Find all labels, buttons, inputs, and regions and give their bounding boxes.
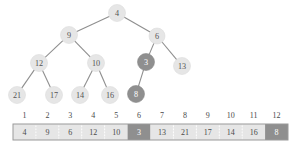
array-index-label: 9 bbox=[206, 111, 210, 120]
array-cell[interactable]: 14 bbox=[219, 124, 242, 140]
tree-node[interactable]: 8 bbox=[128, 86, 145, 103]
tree-node[interactable]: 9 bbox=[61, 27, 78, 44]
tree-edge bbox=[22, 70, 35, 89]
tree-edge bbox=[124, 17, 151, 32]
array-cell[interactable]: 10 bbox=[105, 124, 128, 140]
tree-node-label: 21 bbox=[13, 91, 21, 100]
array-cell-value: 14 bbox=[227, 128, 235, 137]
tree-nodes: 4961210313211714168 bbox=[9, 5, 191, 104]
array-cell-value: 21 bbox=[181, 128, 189, 137]
array-cells: 4961210313211714168 bbox=[13, 124, 288, 140]
array-index-label: 4 bbox=[91, 111, 95, 120]
array-index-label: 12 bbox=[273, 111, 281, 120]
tree-node-label: 4 bbox=[115, 9, 119, 18]
array-index-label: 5 bbox=[114, 111, 118, 120]
array-index-label: 3 bbox=[68, 111, 72, 120]
tree-node-label: 8 bbox=[134, 90, 138, 99]
array-index-label: 10 bbox=[227, 111, 235, 120]
array-index-label: 1 bbox=[22, 111, 26, 120]
array-cell[interactable]: 4 bbox=[13, 124, 36, 140]
array-index-label: 2 bbox=[45, 111, 49, 120]
array-cell-value: 9 bbox=[45, 128, 49, 137]
heap-diagram: 4961210313211714168 123456789101112 4961… bbox=[0, 0, 296, 146]
tree-node-label: 14 bbox=[76, 91, 84, 100]
tree-node[interactable]: 13 bbox=[174, 58, 191, 75]
array-cell-value: 3 bbox=[137, 128, 141, 137]
tree-node[interactable]: 4 bbox=[109, 5, 126, 22]
tree-node-label: 9 bbox=[67, 31, 71, 40]
array-index-labels: 123456789101112 bbox=[22, 111, 280, 120]
array-index-label: 8 bbox=[183, 111, 187, 120]
array-cell[interactable]: 16 bbox=[242, 124, 265, 140]
tree-edge bbox=[149, 43, 154, 55]
tree-node-label: 3 bbox=[144, 58, 148, 67]
tree-edge bbox=[84, 70, 93, 88]
tree-edge bbox=[42, 70, 50, 88]
array-cell-value: 17 bbox=[204, 128, 212, 137]
tree-node[interactable]: 14 bbox=[72, 87, 89, 104]
tree-node-label: 6 bbox=[155, 32, 159, 41]
array-cell[interactable]: 6 bbox=[59, 124, 82, 140]
tree-node-label: 10 bbox=[92, 59, 100, 68]
tree-node-label: 13 bbox=[178, 62, 186, 71]
tree-node-label: 16 bbox=[106, 91, 114, 100]
array-cell-value: 4 bbox=[22, 128, 26, 137]
tree-node[interactable]: 6 bbox=[149, 28, 165, 44]
tree-edge bbox=[76, 16, 109, 31]
array-cell-value: 13 bbox=[158, 128, 166, 137]
array-cell[interactable]: 3 bbox=[128, 124, 151, 140]
tree-node[interactable]: 16 bbox=[102, 87, 119, 104]
array-cell[interactable]: 17 bbox=[196, 124, 219, 140]
array-cell-value: 6 bbox=[68, 128, 72, 137]
tree-node[interactable]: 12 bbox=[31, 55, 48, 72]
array-cell[interactable]: 12 bbox=[82, 124, 105, 140]
array-cell[interactable]: 8 bbox=[265, 124, 288, 140]
tree-node[interactable]: 21 bbox=[9, 87, 26, 104]
tree-edge bbox=[99, 70, 107, 87]
array-cell-value: 8 bbox=[275, 128, 279, 137]
tree-node[interactable]: 3 bbox=[138, 54, 155, 71]
tree-edges bbox=[22, 16, 177, 88]
tree-node-label: 12 bbox=[35, 59, 43, 68]
array-cell[interactable]: 13 bbox=[151, 124, 174, 140]
array-cell[interactable]: 9 bbox=[36, 124, 59, 140]
array-index-label: 11 bbox=[250, 111, 258, 120]
array-cell[interactable]: 21 bbox=[173, 124, 196, 140]
tree-node[interactable]: 10 bbox=[88, 55, 105, 72]
array-index-label: 6 bbox=[137, 111, 141, 120]
tree-node-label: 17 bbox=[50, 91, 58, 100]
array-index-label: 7 bbox=[160, 111, 164, 120]
tree-edge bbox=[138, 70, 143, 87]
tree-edge bbox=[75, 41, 91, 57]
array-cell-value: 16 bbox=[250, 128, 258, 137]
array-cell-value: 12 bbox=[89, 128, 97, 137]
tree-node[interactable]: 17 bbox=[46, 87, 63, 104]
tree-edge bbox=[162, 42, 177, 60]
array-cell-value: 10 bbox=[112, 128, 120, 137]
tree-edge bbox=[45, 40, 63, 57]
